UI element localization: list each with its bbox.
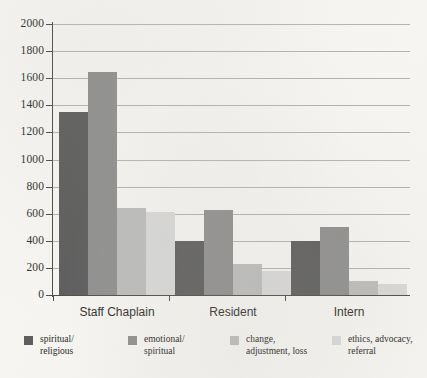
- x-axis-tick-mark: [53, 295, 54, 301]
- bar: [320, 227, 349, 295]
- legend-label: change, adjustment, loss: [246, 334, 307, 357]
- y-axis-tick-label: 600: [2, 208, 44, 220]
- y-axis-line: [52, 22, 53, 297]
- y-axis-tick-label: 200: [2, 262, 44, 274]
- y-axis-tick-label: 1400: [2, 99, 44, 111]
- x-axis-line: [52, 295, 410, 296]
- legend-item: emotional/ spiritual: [128, 334, 185, 357]
- y-axis-tick-label: 1200: [2, 126, 44, 138]
- legend-item: spiritual/ religious: [24, 334, 74, 357]
- plot-area: [53, 24, 410, 295]
- y-axis-tick-label: 2000: [2, 18, 44, 30]
- bar: [175, 241, 204, 295]
- bar-chart: 2000180016001400120010008006004002000 St…: [0, 0, 427, 378]
- bar: [117, 208, 146, 295]
- bar: [378, 284, 407, 295]
- x-axis-category-label: Intern: [279, 305, 419, 319]
- x-axis-tick-mark: [285, 295, 286, 301]
- legend-label: ethics, advocacy, referral: [348, 334, 413, 357]
- legend-swatch-icon: [230, 336, 239, 345]
- y-axis-tick-label: 800: [2, 181, 44, 193]
- chart-legend: spiritual/ religiousemotional/ spiritual…: [0, 334, 427, 374]
- bar: [59, 112, 88, 295]
- bar: [204, 210, 233, 295]
- legend-swatch-icon: [24, 336, 33, 345]
- legend-label: emotional/ spiritual: [144, 334, 185, 357]
- bar: [262, 271, 291, 295]
- y-axis-tick-label: 0: [2, 289, 44, 301]
- bar: [349, 281, 378, 295]
- y-axis-tick-label: 1000: [2, 154, 44, 166]
- legend-swatch-icon: [332, 336, 341, 345]
- bar: [233, 264, 262, 295]
- gridline: [53, 51, 410, 52]
- bar: [291, 241, 320, 295]
- bar: [146, 212, 175, 295]
- legend-label: spiritual/ religious: [40, 334, 74, 357]
- x-axis-tick-mark: [169, 295, 170, 301]
- legend-item: ethics, advocacy, referral: [332, 334, 413, 357]
- legend-item: change, adjustment, loss: [230, 334, 307, 357]
- y-axis-tick-label: 1600: [2, 72, 44, 84]
- y-axis-tick-label: 1800: [2, 45, 44, 57]
- y-axis-tick-label: 400: [2, 235, 44, 247]
- legend-swatch-icon: [128, 336, 137, 345]
- bar: [88, 72, 117, 295]
- gridline: [53, 24, 410, 25]
